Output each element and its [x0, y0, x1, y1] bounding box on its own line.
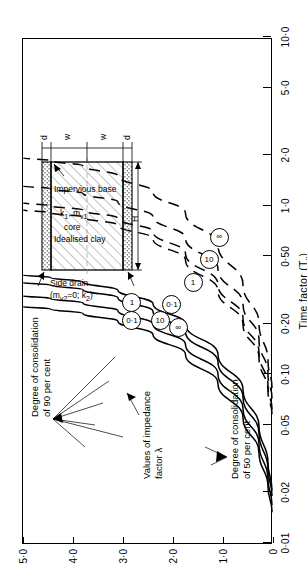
inset-mv1: , m	[68, 208, 80, 218]
inset-svg	[34, 118, 142, 288]
curve-label-text: ∞	[216, 233, 222, 241]
x-tick	[263, 424, 271, 425]
x-axis-title-main: Time factor (T	[297, 260, 307, 329]
y-tick	[273, 537, 274, 543]
x-tick-label: 5·0	[280, 80, 291, 95]
curve-label-text: ∞	[175, 324, 181, 332]
u50-annotation: Degree of consolidation of 50 per cent	[229, 379, 253, 479]
inset-side-drain-props: (mv2=0; k2)	[50, 290, 93, 304]
inset-dim-d-top: d	[39, 135, 49, 140]
u90-line1: Degree of consolidation	[29, 317, 41, 417]
curve-label-circle: ∞	[210, 228, 229, 247]
y-tick-label: 0	[268, 549, 279, 569]
curve-label-circle: 1	[184, 273, 203, 292]
x-tick-label: 0·20	[280, 313, 291, 334]
inset-dim-w-top: w	[62, 134, 72, 140]
y-tick-label: 1·0	[218, 549, 229, 569]
y-tick	[173, 537, 174, 543]
y-tick	[223, 537, 224, 543]
x-tick	[263, 373, 271, 374]
figure-page: 0·010·020·050·100·200·501·02·05·010·0 01…	[0, 0, 307, 588]
y-tick	[123, 537, 124, 543]
lambda-line1: Values of impedance	[141, 391, 153, 479]
x-tick	[263, 36, 271, 37]
inset-mv1-sub: v1	[80, 213, 87, 220]
inset-side-drain-label: Side drain	[50, 278, 88, 288]
y-tick-label: 3·0	[118, 549, 129, 569]
x-tick-label: 0·01	[280, 533, 291, 554]
lambda-annotation: Values of impedance factor λ	[141, 391, 165, 479]
inset-mv2-open: (m	[50, 290, 60, 300]
x-tick-label: 0·02	[280, 482, 291, 503]
x-tick	[263, 154, 271, 155]
u50-line1: Degree of consolidation	[229, 379, 241, 479]
x-axis-title: Time factor (Tv)	[297, 253, 307, 330]
inset-core-label2: core	[64, 222, 81, 232]
inset-core-line1: Idealised clay	[54, 234, 106, 244]
x-tick	[263, 87, 271, 88]
rotated-figure-canvas: 0·010·020·050·100·200·501·02·05·010·0 01…	[0, 0, 307, 588]
curve-label-text: 1	[191, 279, 195, 287]
inset-k2-text: =0; k	[67, 290, 86, 300]
curve-label-text: 0·1	[126, 317, 138, 325]
x-tick	[263, 542, 271, 543]
x-tick-label: 0·50	[280, 246, 291, 267]
y-tick	[23, 537, 24, 543]
inset-impervious-base-label: Impervious base	[54, 184, 116, 194]
curve-label-text: 1	[129, 299, 133, 307]
x-tick	[263, 205, 271, 206]
x-tick-label: 0·05	[280, 415, 291, 436]
inset-dim-w-bottom: w	[98, 134, 108, 140]
x-tick-label: 2·0	[280, 147, 291, 162]
inset-core-label: Idealised clay	[54, 234, 106, 244]
curve-label-text: 10	[156, 317, 165, 325]
y-tick-label: 4·0	[68, 549, 79, 569]
x-tick	[263, 323, 271, 324]
x-tick-label: 1·0	[280, 198, 291, 213]
inset-dim-H: H	[130, 216, 140, 222]
curve-label-circle: ∞	[169, 318, 188, 337]
inset-close-paren: )	[90, 290, 93, 300]
curve-label-text: 0·1	[166, 301, 178, 309]
x-tick-label: 10·0	[280, 27, 291, 48]
curve-label-text: 10	[205, 256, 214, 264]
curve-label-circle: 10	[151, 311, 170, 330]
y-tick	[73, 537, 74, 543]
x-tick-label: 0·10	[280, 364, 291, 385]
inset-core-line2: core	[64, 222, 81, 232]
y-tick-label: 2·0	[168, 549, 179, 569]
inset-diagram: Idealised clay core k1, mv1 Impervious b…	[34, 118, 142, 288]
x-axis-title-end: )	[297, 253, 307, 257]
y-tick-label: 5·0	[18, 549, 29, 569]
u90-line2: of 90 per cent	[41, 317, 53, 417]
x-tick	[263, 491, 271, 492]
lambda-line2: factor λ	[153, 391, 165, 479]
u90-annotation: Degree of consolidation of 90 per cent	[29, 317, 53, 417]
inset-side-drain-text: Side drain	[50, 278, 88, 288]
inset-dim-d-bottom: d	[122, 135, 132, 140]
inset-core-perm: k1, mv1	[60, 208, 87, 222]
x-axis-title-sub: v	[304, 256, 307, 260]
x-tick	[263, 255, 271, 256]
curve-label-circle: 10	[200, 250, 219, 269]
u50-line2: of 50 per cent	[241, 379, 253, 479]
